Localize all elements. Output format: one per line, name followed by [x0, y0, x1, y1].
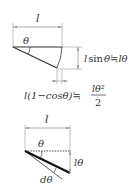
angle-label: θ — [38, 138, 44, 149]
arrow-right-icon — [66, 127, 70, 129]
angle-arc — [41, 151, 43, 158]
diagram-canvas: l θ lsinθ≒lθ l(1−cosθ)≒ lθ² 2 — [0, 0, 139, 184]
fraction-numerator: lθ² — [92, 83, 105, 94]
dtheta-marker — [54, 168, 56, 173]
angle-label: θ — [23, 35, 29, 46]
arrow-in-left-icon — [53, 80, 57, 82]
delta-angle-label: dθ — [40, 174, 52, 184]
arrow-up-icon — [69, 151, 71, 155]
length-label: l — [45, 113, 49, 126]
bottom-diagram: l θ lθ dθ — [25, 113, 83, 184]
arrow-left-icon — [13, 26, 17, 28]
horizontal-formula-prefix: l(1−cosθ)≒ — [24, 90, 81, 101]
arrow-right-icon — [58, 26, 62, 28]
thick-rod — [25, 151, 70, 173]
rotated-rod — [13, 47, 57, 68]
fraction-denominator: 2 — [95, 97, 101, 108]
arrow-up-icon — [77, 47, 79, 51]
top-diagram: l θ lsinθ≒lθ l(1−cosθ)≒ lθ² 2 — [13, 12, 128, 108]
arc-label: lθ — [74, 157, 83, 168]
vertical-label: lsinθ≒lθ — [84, 53, 128, 64]
arrow-left-icon — [25, 127, 29, 129]
length-label: l — [36, 12, 40, 25]
angle-arc — [28, 47, 30, 54]
arrow-down-icon — [77, 65, 79, 69]
swing-arc — [57, 47, 62, 68]
arrow-in-right-icon — [62, 80, 66, 82]
